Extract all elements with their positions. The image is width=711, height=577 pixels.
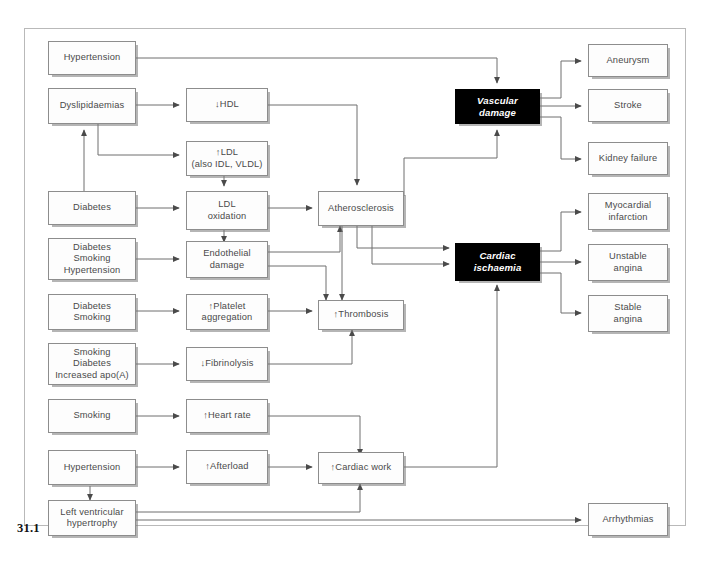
node-diabetes-smoking-hypertension[interactable]: Diabetes Smoking Hypertension xyxy=(48,238,136,280)
node-cardiac-work[interactable]: ↑Cardiac work xyxy=(318,452,404,484)
node-label: Endothelial damage xyxy=(190,248,264,271)
node-label: Hypertension xyxy=(52,462,132,473)
node-label: Kidney failure xyxy=(592,153,664,164)
node-myocardial-infarction[interactable]: Myocardial infarction xyxy=(588,193,668,230)
node-label: ↑LDL (also IDL, VLDL) xyxy=(190,147,264,170)
node-label: Unstable angina xyxy=(592,251,664,274)
node-label: Left ventricular hypertrophy xyxy=(52,507,132,530)
node-aneurysm[interactable]: Aneurysm xyxy=(588,44,668,77)
node-cardiac-ischaemia[interactable]: Cardiac ischaemia xyxy=(455,243,540,281)
node-label: Diabetes xyxy=(52,202,132,213)
node-diabetes-smoking[interactable]: Diabetes Smoking xyxy=(48,294,136,330)
node-dyslipidaemias[interactable]: Dyslipidaemias xyxy=(48,88,136,124)
node-stable-angina[interactable]: Stable angina xyxy=(588,295,668,332)
node-fibrinolysis-decrease[interactable]: ↓Fibrinolysis xyxy=(186,347,268,381)
node-endothelial-damage[interactable]: Endothelial damage xyxy=(186,241,268,278)
node-label: Cardiac ischaemia xyxy=(459,250,536,274)
node-hypertension-lower[interactable]: Hypertension xyxy=(48,450,136,485)
node-label: Stroke xyxy=(592,100,664,111)
node-label: Myocardial infarction xyxy=(592,200,664,223)
node-kidney-failure[interactable]: Kidney failure xyxy=(588,142,668,175)
node-label: Smoking xyxy=(52,410,132,421)
node-label: Atherosclerosis xyxy=(322,203,400,214)
node-label: Hypertension xyxy=(52,52,132,63)
node-platelet-aggregation[interactable]: ↑Platelet aggregation xyxy=(186,294,268,330)
node-arrhythmias[interactable]: Arrhythmias xyxy=(588,503,668,536)
node-atherosclerosis[interactable]: Atherosclerosis xyxy=(318,191,404,226)
node-label: ↑Heart rate xyxy=(190,410,264,421)
node-label: Diabetes Smoking xyxy=(52,301,132,324)
node-label: ↑Afterload xyxy=(190,461,264,472)
node-hdl-decrease[interactable]: ↓HDL xyxy=(186,88,268,122)
node-label: Smoking Diabetes Increased apo(A) xyxy=(52,347,132,381)
node-vascular-damage[interactable]: Vascular damage xyxy=(455,89,540,124)
node-label: ↓Fibrinolysis xyxy=(190,358,264,369)
node-label: ↓HDL xyxy=(190,99,264,110)
node-label: Arrhythmias xyxy=(592,514,664,525)
node-label: Dyslipidaemias xyxy=(52,100,132,111)
node-ldl-oxidation[interactable]: LDL oxidation xyxy=(186,191,268,230)
node-ldl-increase[interactable]: ↑LDL (also IDL, VLDL) xyxy=(186,141,268,176)
node-label: LDL oxidation xyxy=(190,199,264,222)
node-unstable-angina[interactable]: Unstable angina xyxy=(588,244,668,281)
node-label: ↑Platelet aggregation xyxy=(190,301,264,324)
node-afterload-increase[interactable]: ↑Afterload xyxy=(186,450,268,484)
node-label: Aneurysm xyxy=(592,55,664,66)
node-label: ↑Cardiac work xyxy=(322,462,400,473)
figure-canvas: Hypertension Dyslipidaemias Diabetes Dia… xyxy=(0,0,711,577)
node-smoking[interactable]: Smoking xyxy=(48,399,136,433)
node-diabetes[interactable]: Diabetes xyxy=(48,191,136,225)
node-smoking-diabetes-apoa[interactable]: Smoking Diabetes Increased apo(A) xyxy=(48,343,136,385)
node-hypertension-top[interactable]: Hypertension xyxy=(48,41,136,75)
node-label: Stable angina xyxy=(592,302,664,325)
node-heart-rate-increase[interactable]: ↑Heart rate xyxy=(186,399,268,433)
node-left-ventricular-hypertrophy[interactable]: Left ventricular hypertrophy xyxy=(48,500,136,536)
node-thrombosis[interactable]: ↑Thrombosis xyxy=(318,300,404,330)
node-label: ↑Thrombosis xyxy=(322,309,400,320)
node-stroke[interactable]: Stroke xyxy=(588,89,668,122)
node-label: Vascular damage xyxy=(459,95,536,119)
node-label: Diabetes Smoking Hypertension xyxy=(52,242,132,276)
figure-number: 31.1 xyxy=(17,521,40,536)
